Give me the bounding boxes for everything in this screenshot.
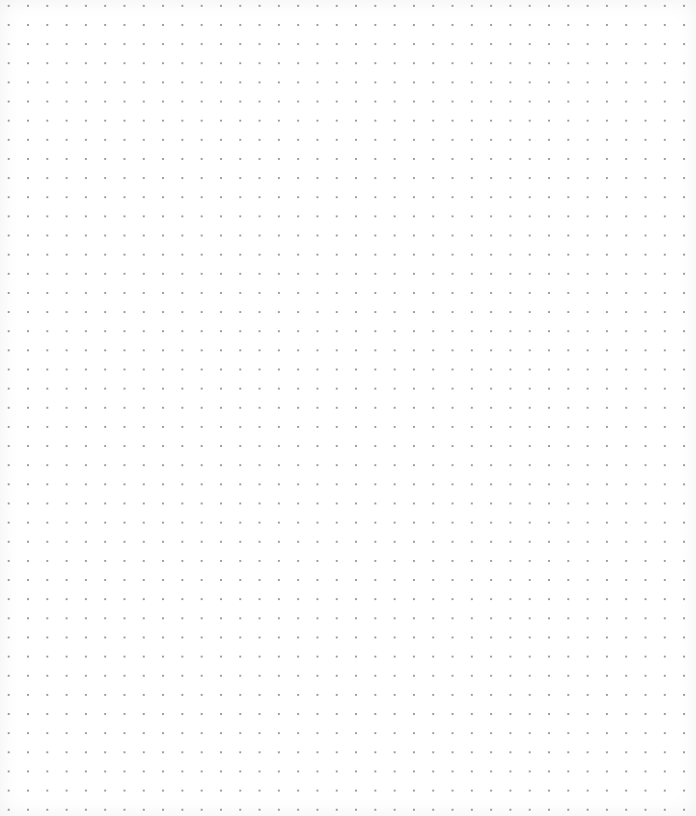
edge-vignette: [0, 0, 696, 816]
dot-grid-canvas[interactable]: [0, 0, 696, 816]
